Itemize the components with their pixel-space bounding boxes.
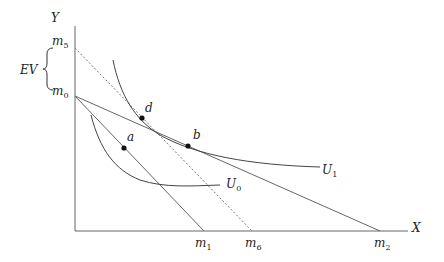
point-label-b: b [193,128,201,142]
ev-indifference-diagram: Y X m5 m0 EV m1 m6 m2 U0 U1 a d b [0,0,444,262]
budget-line-m0-m2 [75,96,380,231]
tick-m0: m0 [52,84,68,100]
tick-m6: m6 [245,236,261,252]
indifference-curve-u0 [91,115,220,186]
curve-label-u1: U1 [322,163,337,179]
ev-label: EV [19,63,39,77]
tick-m1: m1 [195,236,211,252]
tick-m2: m2 [374,236,390,252]
compensated-budget-line-m5-m6 [75,48,252,231]
budget-line-m0-m1 [75,96,204,231]
x-axis-label: X [411,221,421,235]
y-axis-label: Y [51,11,60,25]
point-label-a: a [127,130,134,144]
tick-m5: m5 [52,34,68,50]
point-label-d: d [145,101,153,115]
diagram-canvas: Y X m5 m0 EV m1 m6 m2 U0 U1 a d b [0,0,444,262]
curve-label-u0: U0 [226,177,241,193]
point-b [185,143,190,148]
point-d [139,115,144,120]
point-a [121,145,126,150]
